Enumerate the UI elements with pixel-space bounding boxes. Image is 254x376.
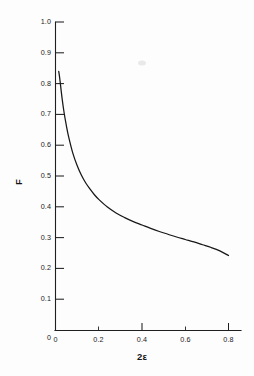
y-axis: 1.0 0.9 0.8 0.7 0.6 0.5 0.4 0.3 0.2 0.1 …: [13, 17, 64, 342]
y-tick-label: 0.3: [41, 233, 51, 242]
y-tick-label: 0.6: [41, 140, 51, 149]
x-tick-label: 0: [53, 335, 57, 344]
y-tick-label: 0.8: [41, 79, 51, 88]
y-axis-title: F: [13, 179, 24, 185]
x-axis: 0 0.2 0.4 0.6 0.8 2ε: [53, 323, 241, 362]
figure-panel: 1.0 0.9 0.8 0.7 0.6 0.5 0.4 0.3 0.2 0.1 …: [0, 0, 254, 376]
line-chart: 1.0 0.9 0.8 0.7 0.6 0.5 0.4 0.3 0.2 0.1 …: [0, 0, 254, 376]
y-tick-label: 1.0: [41, 17, 51, 26]
y-tick-label: 0.7: [41, 109, 51, 118]
x-axis-title: 2ε: [137, 351, 147, 362]
x-axis-ticks: [56, 323, 229, 331]
y-tick-label: 0.4: [41, 202, 51, 211]
scan-speck: [138, 61, 146, 66]
y-tick-label: 0.5: [41, 171, 51, 180]
y-tick-label: 0.9: [41, 48, 51, 57]
y-tick-label: 0.2: [41, 263, 51, 272]
y-tick-label: 0.1: [41, 294, 51, 303]
y-tick-label-origin: 0: [47, 333, 51, 342]
x-tick-label: 0.6: [180, 335, 190, 344]
data-series-curve: [59, 71, 229, 255]
x-tick-label: 0.8: [223, 335, 233, 344]
y-axis-tick-labels: 1.0 0.9 0.8 0.7 0.6 0.5 0.4 0.3 0.2 0.1 …: [41, 17, 51, 342]
y-axis-ticks: [56, 22, 65, 299]
x-axis-tick-labels: 0 0.2 0.4 0.6 0.8: [53, 335, 233, 344]
x-tick-label: 0.2: [93, 335, 103, 344]
x-tick-label: 0.4: [137, 335, 147, 344]
